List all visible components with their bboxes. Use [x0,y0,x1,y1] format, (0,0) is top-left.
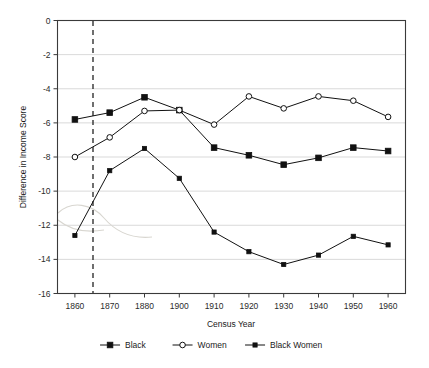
x-axis-tick-label: 1920 [239,301,258,311]
data-point [281,162,287,168]
x-axis-tick-label: 1880 [135,301,154,311]
legend-label: Women [198,340,227,350]
data-point [73,233,77,237]
data-point [316,155,322,161]
y-axis-tick-label: -4 [43,84,51,94]
y-axis-tick-label: -16 [38,289,51,299]
y-axis-tick-label: -2 [43,50,51,60]
data-point [316,94,322,100]
legend-label: Black Women [270,340,323,350]
y-axis-tick-label: -14 [38,254,51,264]
legend-item-black[interactable]: Black [100,340,147,350]
scan-artifact [58,205,152,237]
income-score-line-chart: 0-2-4-6-8-10-12-14-16 186018701880190019… [0,0,429,368]
series-polyline [75,96,388,157]
series-polyline [75,148,388,264]
y-axis-tick-label: -12 [38,220,51,230]
data-point [281,106,287,112]
series-women [72,94,391,160]
y-axis-tick-label: 0 [46,16,51,26]
data-point [212,230,216,234]
data-point [177,107,183,113]
data-point [142,94,148,100]
legend-marker-icon [107,342,113,348]
x-axis-tick-label: 1870 [100,301,119,311]
series-black-women [73,146,390,266]
data-point [72,117,78,123]
series-black [72,94,391,167]
x-axis-tick-label: 1910 [205,301,224,311]
data-point [246,94,252,100]
data-point [246,152,252,158]
x-axis-title: Census Year [207,319,255,329]
data-point [282,262,286,266]
legend-marker-icon [253,343,257,347]
chart-canvas: 0-2-4-6-8-10-12-14-16 186018701880190019… [0,0,429,368]
data-point [142,108,148,114]
y-axis-tick-label: -10 [38,186,51,196]
legend-marker-icon [180,342,186,348]
y-axis-tick-label: -8 [43,152,51,162]
data-point [107,135,113,141]
x-axis-tick-label: 1950 [344,301,363,311]
legend-item-black-women[interactable]: Black Women [245,340,323,350]
chart-legend: BlackWomenBlack Women [100,340,323,350]
data-point [72,154,78,160]
data-point [385,114,391,120]
data-point [386,243,390,247]
x-axis-tick-label: 1860 [65,301,84,311]
data-point [351,234,355,238]
data-point [108,169,112,173]
x-axis: 1860187018801900191019201930194019501960 [65,294,397,311]
data-point [385,148,391,154]
data-point [316,253,320,257]
data-point [351,145,357,151]
y-axis-title: Difference in Income Score [18,106,28,209]
series-polyline [75,97,388,164]
x-axis-tick-label: 1940 [309,301,328,311]
y-axis: 0-2-4-6-8-10-12-14-16 [38,16,57,299]
x-axis-tick-label: 1930 [274,301,293,311]
data-point [211,145,217,151]
gridlines [58,55,406,260]
y-axis-tick-label: -6 [43,118,51,128]
data-point [211,122,217,128]
data-point [142,146,146,150]
x-axis-tick-label: 1960 [379,301,398,311]
legend-label: Black [125,340,147,350]
series-layer [72,94,391,267]
x-axis-tick-label: 1900 [170,301,189,311]
data-point [177,176,181,180]
data-point [247,250,251,254]
data-point [351,98,357,104]
legend-item-women[interactable]: Women [173,340,227,350]
data-point [107,110,113,116]
